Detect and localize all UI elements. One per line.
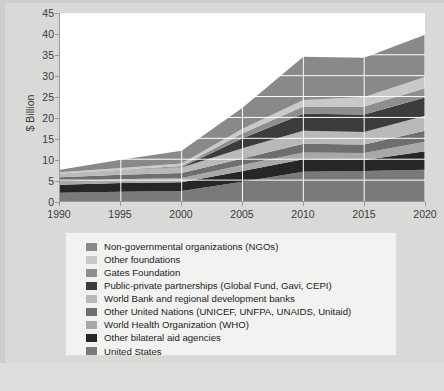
legend-swatch-icon [86,256,97,264]
x-tick-label: 2000 [169,209,192,220]
chart-legend: Non-governmental organizations (NGOs)Oth… [66,233,396,355]
legend-item[interactable]: World Bank and regional development bank… [86,292,392,305]
x-tick-label: 2005 [230,209,253,220]
y-tick [55,13,59,14]
y-tick [55,97,59,98]
x-tick-label: 2020 [413,209,436,220]
stacked-area-svg [60,13,425,201]
y-tick-label: 20 [30,113,54,124]
legend-item[interactable]: United States [86,345,392,358]
x-tick [120,202,121,206]
legend-list: Non-governmental organizations (NGOs)Oth… [86,240,392,358]
legend-item-label: Other foundations [104,255,180,265]
legend-swatch-icon [86,295,97,303]
x-tick [364,202,365,206]
y-tick [55,139,59,140]
y-tick [55,55,59,56]
legend-item-label: United States [104,347,162,357]
legend-swatch-icon [86,308,97,316]
y-tick-label: 5 [30,176,54,187]
legend-item[interactable]: Other foundations [86,253,392,266]
plot-area-wrapper: 051015202530354045 199019952000200520102… [59,13,425,202]
page-edge-left [0,0,5,391]
x-tick [425,202,426,206]
y-tick-label: 15 [30,134,54,145]
page-edge-top [0,0,444,3]
legend-item-label: Non-governmental organizations (NGOs) [104,242,278,252]
y-tick-label: 35 [30,50,54,61]
x-tick-label: 2015 [352,209,375,220]
y-tick [55,181,59,182]
y-tick [55,118,59,119]
legend-item-label: Other bilateral aid agencies [104,333,221,343]
legend-item[interactable]: Non-governmental organizations (NGOs) [86,240,392,253]
x-tick [181,202,182,206]
y-tick-label: 25 [30,92,54,103]
y-tick [55,160,59,161]
x-tick [59,202,60,206]
legend-swatch-icon [86,282,97,290]
y-tick-label: 45 [30,8,54,19]
page-edge-bottom [0,363,444,391]
legend-swatch-icon [86,334,97,342]
legend-item-label: Other United Nations (UNICEF, UNFPA, UNA… [104,307,351,317]
x-tick-label: 1990 [47,209,70,220]
legend-item-label: World Health Organization (WHO) [104,320,249,330]
legend-item[interactable]: Other bilateral aid agencies [86,332,392,345]
x-tick [242,202,243,206]
legend-item[interactable]: Gates Foundation [86,266,392,279]
y-tick-label: 40 [30,29,54,40]
x-tick [303,202,304,206]
legend-item-label: Gates Foundation [104,268,180,278]
y-tick [55,34,59,35]
legend-swatch-icon [86,321,97,329]
chart-figure: $ Billion 051015202530354045 19901995200… [8,4,436,222]
y-tick-label: 10 [30,155,54,166]
legend-swatch-icon [86,243,97,251]
legend-item-label: Public-private partnerships (Global Fund… [104,281,332,291]
legend-swatch-icon [86,347,97,355]
x-tick-label: 1995 [108,209,131,220]
legend-item-label: World Bank and regional development bank… [104,294,295,304]
y-tick-label: 0 [30,197,54,208]
y-tick-label: 30 [30,71,54,82]
y-tick [55,76,59,77]
legend-item[interactable]: Other United Nations (UNICEF, UNFPA, UNA… [86,305,392,318]
legend-item[interactable]: Public-private partnerships (Global Fund… [86,279,392,292]
x-tick-label: 2010 [291,209,314,220]
page-background: $ Billion 051015202530354045 19901995200… [0,0,444,391]
legend-item[interactable]: World Health Organization (WHO) [86,319,392,332]
plot-area [59,13,425,202]
legend-swatch-icon [86,269,97,277]
